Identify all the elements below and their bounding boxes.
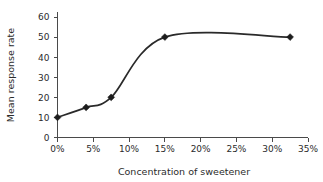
y-tick-label: 30 bbox=[38, 73, 50, 83]
chart-container: Mean response rate Concentration of swee… bbox=[0, 0, 323, 182]
x-tick-label: 25% bbox=[226, 144, 246, 154]
y-tick-label: 60 bbox=[38, 12, 50, 22]
x-tick-label: 35% bbox=[298, 144, 318, 154]
y-tick-label: 40 bbox=[38, 53, 50, 63]
data-point-markers bbox=[54, 34, 293, 121]
line-chart: Mean response rate Concentration of swee… bbox=[0, 0, 323, 182]
y-tick-label: 10 bbox=[38, 113, 50, 123]
x-tick-label: 20% bbox=[191, 144, 211, 154]
y-axis-title: Mean response rate bbox=[5, 28, 16, 123]
x-tick-label: 5% bbox=[86, 144, 101, 154]
x-tick-label: 30% bbox=[262, 144, 282, 154]
data-point-marker bbox=[161, 34, 168, 41]
y-tick-label: 50 bbox=[38, 32, 50, 42]
x-tick-label: 15% bbox=[155, 144, 175, 154]
data-point-marker bbox=[83, 104, 90, 111]
y-axis-ticks: 0102030405060 bbox=[38, 12, 57, 143]
y-tick-label: 0 bbox=[44, 133, 50, 143]
x-tick-label: 0% bbox=[50, 144, 65, 154]
x-axis-title: Concentration of sweetener bbox=[118, 166, 250, 177]
data-point-marker bbox=[287, 34, 294, 41]
x-axis-ticks: 0%5%10%15%20%25%30%35% bbox=[50, 138, 318, 154]
y-tick-label: 20 bbox=[38, 93, 50, 103]
data-point-marker bbox=[54, 114, 61, 121]
x-tick-label: 10% bbox=[119, 144, 139, 154]
data-series-line bbox=[58, 33, 291, 118]
